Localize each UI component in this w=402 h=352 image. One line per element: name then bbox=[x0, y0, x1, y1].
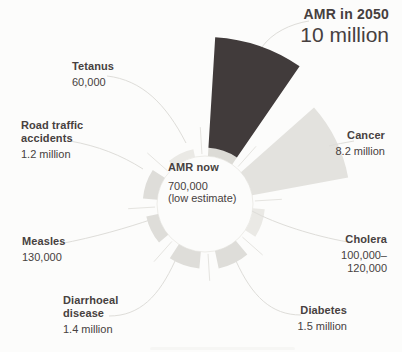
label-tetanus: Tetanus 60,000 bbox=[72, 60, 114, 89]
leader-measles bbox=[59, 219, 153, 244]
label-diabetes-name: Diabetes bbox=[297, 304, 347, 317]
label-cholera: Cholera 100,000– 120,000 bbox=[341, 233, 387, 275]
leader-diabetes bbox=[236, 261, 301, 315]
label-diabetes: Diabetes 1.5 million bbox=[297, 304, 347, 333]
label-road-traffic: Road traffic accidents 1.2 million bbox=[21, 119, 83, 161]
label-measles-name: Measles bbox=[22, 235, 66, 248]
chart-title: AMR in 2050 10 million bbox=[300, 6, 389, 46]
sector-diarrhoeal-disease bbox=[170, 244, 201, 268]
label-cancer-value: 8.2 million bbox=[335, 145, 385, 158]
label-cholera-name: Cholera bbox=[341, 233, 387, 246]
label-road-traffic-value: 1.2 million bbox=[21, 148, 83, 161]
chart-title-line2: 10 million bbox=[300, 23, 389, 46]
chart-title-line1: AMR in 2050 bbox=[300, 6, 389, 22]
label-amr-now-name: AMR now bbox=[168, 161, 236, 174]
label-diarrhoeal-value: 1.4 million bbox=[63, 323, 118, 336]
label-measles-value: 130,000 bbox=[22, 251, 66, 264]
leader-diarrhoeal bbox=[109, 261, 175, 316]
sector-diabetes-wedge bbox=[215, 241, 247, 269]
label-amr-now-value: 700,000 bbox=[168, 180, 236, 192]
label-cholera-value1: 100,000– bbox=[341, 249, 387, 262]
scan-artifact bbox=[150, 347, 295, 350]
sector-measles-wedge bbox=[146, 214, 168, 243]
sector-measles bbox=[146, 214, 168, 243]
sector-diabetes bbox=[215, 241, 247, 269]
label-amr-now-note: (low estimate) bbox=[168, 192, 236, 204]
label-amr-now: AMR now 700,000 (low estimate) bbox=[168, 161, 236, 204]
label-cancer-name: Cancer bbox=[335, 129, 385, 142]
label-diarrhoeal-name1: Diarrhoeal bbox=[63, 294, 118, 307]
label-measles: Measles 130,000 bbox=[22, 235, 66, 264]
leader-cholera bbox=[252, 211, 348, 242]
label-diarrhoeal-name2: disease bbox=[63, 307, 118, 320]
leader-tetanus bbox=[107, 76, 186, 143]
amr-infographic: AMR in 2050 10 million Tetanus 60,000 Ro… bbox=[0, 0, 402, 352]
label-cholera-value2: 120,000 bbox=[341, 262, 387, 275]
label-tetanus-name: Tetanus bbox=[72, 60, 114, 73]
sector-spokes bbox=[128, 127, 282, 281]
label-road-traffic-name2: accidents bbox=[21, 132, 83, 145]
label-tetanus-value: 60,000 bbox=[72, 76, 114, 89]
label-diarrhoeal: Diarrhoeal disease 1.4 million bbox=[63, 294, 118, 336]
label-cancer: Cancer 8.2 million bbox=[335, 129, 385, 158]
label-road-traffic-name1: Road traffic bbox=[21, 119, 83, 132]
sector-diarrhoeal-disease-wedge bbox=[170, 244, 201, 268]
label-diabetes-value: 1.5 million bbox=[297, 320, 347, 333]
